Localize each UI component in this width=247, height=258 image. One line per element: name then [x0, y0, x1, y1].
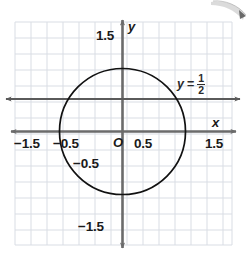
- x-tick-label-neg-0-5: −0.5: [53, 137, 79, 151]
- coordinate-plane-svg: [0, 0, 247, 258]
- fraction-numerator: 1: [197, 73, 205, 84]
- x-tick-label-1-5: 1.5: [205, 137, 223, 151]
- y-tick-label-neg-1-5: −1.5: [78, 220, 104, 234]
- equation-variable: y: [177, 77, 186, 91]
- equation-label-y-equals-one-half: y = 1 2: [177, 73, 205, 95]
- origin-label: O: [113, 136, 123, 149]
- y-tick-label-1-5: 1.5: [96, 29, 114, 43]
- y-tick-label-neg-0-5: −0.5: [73, 157, 99, 171]
- x-axis-name: x: [212, 116, 219, 129]
- x-tick-label-neg-1-5: −1.5: [14, 137, 40, 151]
- y-axis-name: y: [128, 20, 135, 33]
- page-scan-artifact: [199, 0, 247, 24]
- equation-equals-sign: =: [186, 77, 197, 91]
- fraction-one-half: 1 2: [197, 73, 205, 95]
- graph-figure: −1.5 −0.5 0.5 1.5 1.5 −0.5 −1.5 O x y y …: [0, 0, 247, 258]
- x-tick-label-0-5: 0.5: [134, 137, 152, 151]
- fraction-denominator: 2: [197, 84, 205, 96]
